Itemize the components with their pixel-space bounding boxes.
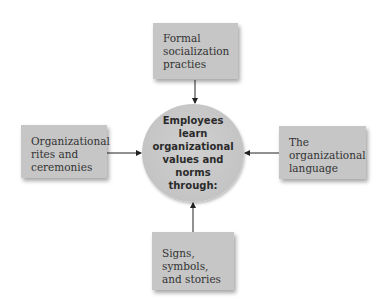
center-node: Employees learn organizational values an… <box>142 104 244 202</box>
node-rites-ceremonies: Organizational rites and ceremonies <box>21 125 107 178</box>
node-formal-socialization: Formal socialization practies <box>153 23 238 79</box>
node-label: Signs, symbols, and stories <box>162 247 221 285</box>
node-label: The organizational language <box>289 136 366 174</box>
center-label: Employees learn organizational values an… <box>150 114 236 192</box>
node-organizational-language: The organizational language <box>279 126 366 179</box>
node-signs-symbols-stories: Signs, symbols, and stories <box>152 232 234 290</box>
node-label: Formal socialization practies <box>163 32 229 70</box>
node-label: Organizational rites and ceremonies <box>31 135 110 173</box>
